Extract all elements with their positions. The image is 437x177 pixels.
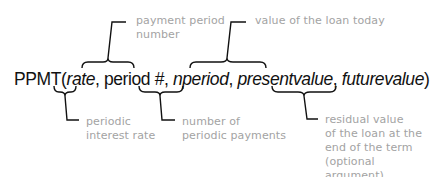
annotation-line: residual value	[325, 113, 437, 127]
annotation-line: end of the term	[325, 141, 437, 155]
arg-period: , period #,	[95, 69, 173, 89]
annotation-line: number of	[182, 115, 286, 129]
function-name: PPMT(	[14, 69, 66, 89]
annotation-rate: periodic interest rate	[86, 115, 155, 143]
annotation-payment-period: payment period number	[136, 14, 225, 42]
annotation-line: (optional argument)	[325, 155, 437, 177]
annotation-line: payment period	[136, 14, 225, 28]
arg-futurevalue: futurevalue	[342, 69, 424, 89]
annotation-line: interest rate	[86, 129, 155, 143]
annotation-line: of the loan at the	[325, 127, 437, 141]
brace-period	[82, 58, 134, 68]
annotation-line: value of the loan today	[255, 14, 385, 28]
ppmt-formula: PPMT(rate, period #, nperiod, presentval…	[14, 69, 429, 90]
annotation-present-value: value of the loan today	[255, 14, 385, 28]
arg-presentvalue: presentvalue	[237, 69, 332, 89]
arg-nperiod: nperiod	[173, 69, 229, 89]
annotation-line: periodic	[86, 115, 155, 129]
annotation-future-value: residual value of the loan at the end of…	[325, 113, 437, 177]
annotation-nperiod: number of periodic payments	[182, 115, 286, 143]
brace-presentvalue	[190, 58, 266, 68]
arg-rate: rate	[66, 69, 95, 89]
separator: ,	[333, 69, 342, 89]
annotation-line: periodic payments	[182, 129, 286, 143]
closing-paren: )	[424, 69, 429, 89]
annotation-line: number	[136, 28, 225, 42]
